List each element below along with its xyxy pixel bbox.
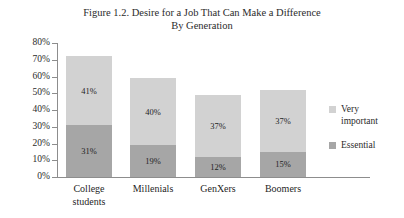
chart-title-line-1: Figure 1.2. Desire for a Job That Can Ma… [30, 6, 374, 19]
legend-swatch-icon [329, 106, 336, 113]
y-axis-tick [52, 144, 57, 145]
legend-entry[interactable]: Veryimportant [329, 104, 404, 127]
legend-label-line: Essential [341, 140, 404, 152]
y-axis-tick-label: 50% [2, 88, 50, 98]
y-axis-tick-label: 0% [2, 172, 50, 182]
bar-segment-essential[interactable]: 19% [130, 145, 176, 177]
y-axis-tick [52, 160, 57, 161]
y-axis-tick-label: 40% [2, 105, 50, 115]
legend-label: Veryimportant [341, 104, 404, 127]
y-axis-tick-label: 80% [2, 38, 50, 48]
legend-label-line: Very [341, 104, 404, 116]
y-axis-tick-label: 20% [2, 139, 50, 149]
legend-swatch-icon [329, 142, 336, 149]
bar-segment-value: 12% [195, 162, 241, 171]
plot-area: 41%31%40%19%37%12%37%15% [57, 43, 370, 177]
legend-entry[interactable]: Essential [329, 140, 404, 152]
stacked-bar[interactable]: 41%31% [66, 56, 112, 177]
bar-segment-value: 41% [66, 86, 112, 95]
x-axis-line [57, 177, 370, 178]
y-axis-tick [52, 60, 57, 61]
x-axis-label-line: Boomers [240, 183, 326, 196]
y-axis-tick [52, 77, 57, 78]
bar-segment-value: 31% [66, 147, 112, 156]
y-axis: 80%70%60%50%40%30%20%10%0% [0, 0, 50, 218]
chart-title: Figure 1.2. Desire for a Job That Can Ma… [30, 6, 374, 32]
bar-segment-value: 37% [195, 121, 241, 130]
chart-title-line-2: By Generation [30, 19, 374, 32]
x-axis-label-boomers: Boomers [240, 183, 326, 196]
bar-segment-essential[interactable]: 31% [66, 125, 112, 177]
y-axis-tick-label: 70% [2, 55, 50, 65]
chart-legend: VeryimportantEssential [329, 104, 404, 165]
stacked-bar[interactable]: 40%19% [130, 78, 176, 177]
bar-segment-value: 40% [130, 107, 176, 116]
figure-chart: Figure 1.2. Desire for a Job That Can Ma… [0, 0, 404, 218]
y-axis-tick-label: 30% [2, 122, 50, 132]
x-axis-label-line: students [46, 196, 132, 209]
y-axis-tick [52, 93, 57, 94]
bar-segment-value: 19% [130, 157, 176, 166]
stacked-bar[interactable]: 37%12% [195, 95, 241, 177]
y-axis-tick [52, 177, 57, 178]
bar-segment-very-important[interactable]: 40% [130, 78, 176, 145]
bar-segment-value: 37% [260, 116, 306, 125]
y-axis-tick [52, 110, 57, 111]
y-axis-tick-label: 10% [2, 155, 50, 165]
bar-segment-very-important[interactable]: 37% [260, 90, 306, 152]
legend-label-line: important [341, 116, 404, 128]
bar-segment-value: 15% [260, 160, 306, 169]
stacked-bar[interactable]: 37%15% [260, 90, 306, 177]
y-axis-tick [52, 127, 57, 128]
bar-segment-very-important[interactable]: 37% [195, 95, 241, 157]
bar-segment-essential[interactable]: 15% [260, 152, 306, 177]
y-axis-tick [52, 43, 57, 44]
bar-segment-very-important[interactable]: 41% [66, 56, 112, 125]
y-axis-tick-label: 60% [2, 72, 50, 82]
legend-label: Essential [341, 140, 404, 152]
bar-segment-essential[interactable]: 12% [195, 157, 241, 177]
